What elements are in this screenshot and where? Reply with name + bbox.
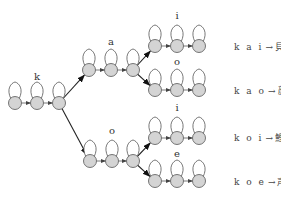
hmm-state-node <box>149 84 162 97</box>
hmm-state-node <box>9 97 22 110</box>
phoneme-sequence: k a i <box>234 42 263 52</box>
hmm-state-node <box>171 84 184 97</box>
word-output-2: k o i→鯉 <box>234 132 281 143</box>
kanji-word: 顔 <box>278 85 281 96</box>
hmm-state-node <box>149 132 162 145</box>
arrow-icon: → <box>265 42 275 52</box>
hmm-state-node <box>193 84 206 97</box>
hmm-state-node <box>53 97 66 110</box>
kanji-word: 貝 <box>275 42 281 52</box>
phoneme-model-kai <box>149 25 206 53</box>
hmm-state-node <box>171 40 184 53</box>
arrow-icon: → <box>268 177 278 187</box>
hmm-state-node <box>171 175 184 188</box>
hmm-state-node <box>193 40 206 53</box>
hmm-state-node <box>31 97 44 110</box>
word-outputs: k a i→貝k a o→顔k o i→鯉k o e→声 <box>234 42 281 187</box>
hmm-state-node <box>193 175 206 188</box>
phoneme-sequence: k o e <box>234 177 266 187</box>
word-output-0: k a i→貝 <box>234 42 281 52</box>
arrow-icon: → <box>268 86 278 96</box>
phoneme-sequence: k o i <box>234 133 263 143</box>
word-output-3: k o e→声 <box>234 176 281 187</box>
phoneme-model-koi <box>149 117 206 145</box>
branch-arrow-k-ko <box>59 103 87 155</box>
hmm-tree-diagram: kaoioie k a i→貝k a o→顔k o i→鯉k o e→声 <box>0 0 281 198</box>
hmm-state-node <box>171 132 184 145</box>
phoneme-label-ko: o <box>109 125 115 136</box>
phoneme-label-kao: o <box>174 56 180 67</box>
hmm-state-node <box>127 64 140 77</box>
phoneme-label-k: k <box>34 71 41 82</box>
hmm-state-node <box>149 40 162 53</box>
arrow-icon: → <box>265 133 275 143</box>
hmm-state-node <box>84 155 97 168</box>
kanji-word: 鯉 <box>275 132 281 143</box>
phoneme-label-koi: i <box>175 102 178 113</box>
phoneme-model-ko <box>84 140 140 168</box>
phoneme-sequence: k a o <box>234 86 266 96</box>
phoneme-label-koe: e <box>174 148 180 159</box>
phoneme-model-k <box>9 82 66 110</box>
phoneme-label-kai: i <box>175 10 178 21</box>
hmm-state-node <box>127 155 140 168</box>
hmm-state-node <box>193 132 206 145</box>
phoneme-model-kao <box>149 69 206 97</box>
phoneme-model-ka <box>83 49 140 77</box>
phoneme-label-ka: a <box>108 36 114 47</box>
hmm-state-node <box>106 155 119 168</box>
kanji-word: 声 <box>277 176 281 187</box>
phoneme-model-koe <box>149 160 206 188</box>
hmm-state-node <box>83 64 96 77</box>
word-output-1: k a o→顔 <box>234 85 281 96</box>
hmm-state-node <box>105 64 118 77</box>
hmm-state-node <box>149 175 162 188</box>
